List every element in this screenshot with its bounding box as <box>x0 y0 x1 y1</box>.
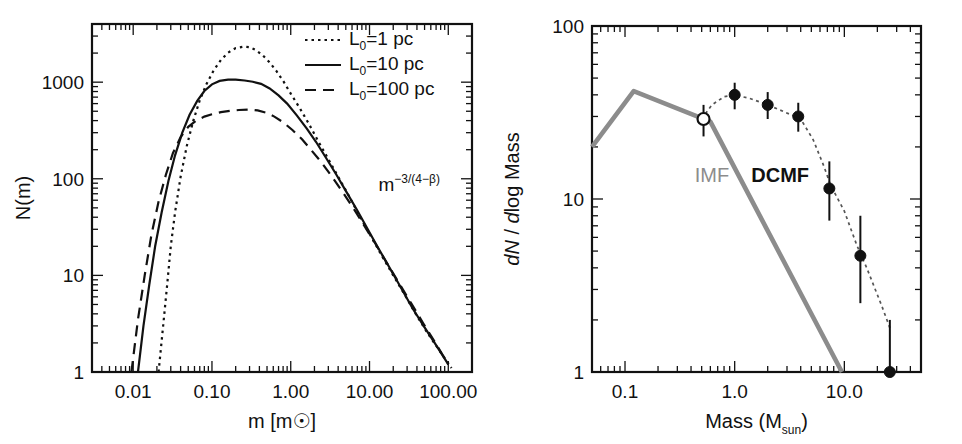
y-tick-label: 10 <box>563 189 584 210</box>
legend-label: L0=100 pc <box>349 78 434 103</box>
figure-container: 0.010.101.0010.00100.001101001000m [m☉]N… <box>0 0 962 444</box>
right-plot-frame <box>592 26 921 372</box>
right-panel-chart: 0.11.010.0110100Mass (Msun)dN / dlog Mas… <box>481 0 962 444</box>
powerlaw-annotation: m−3/(4−β) <box>378 172 439 195</box>
data-point-filled <box>729 89 740 100</box>
imf-annotation: IMF <box>695 164 729 186</box>
x-axis-title: Mass (Msun) <box>705 410 808 437</box>
data-point-filled <box>762 99 773 110</box>
x-tick-label: 1.00 <box>272 381 309 402</box>
legend-label: L0=1 pc <box>349 28 413 53</box>
x-tick-label: 0.1 <box>612 381 638 402</box>
data-point-filled <box>824 183 835 194</box>
series-curve <box>131 110 448 372</box>
data-point-filled <box>855 250 866 261</box>
imf-curve <box>592 91 842 372</box>
x-tick-label: 0.10 <box>193 381 230 402</box>
y-tick-label: 1000 <box>42 72 84 93</box>
dcmf-annotation: DCMF <box>751 164 809 186</box>
y-tick-label: 100 <box>52 169 84 190</box>
legend-label: L0=10 pc <box>349 53 424 78</box>
x-tick-label: 100.00 <box>419 381 477 402</box>
y-tick-label: 1 <box>73 362 84 383</box>
y-tick-label: 10 <box>63 265 84 286</box>
data-point-open <box>698 113 710 125</box>
y-axis-title: dN / dlog Mass <box>501 132 523 265</box>
x-tick-label: 1.0 <box>721 381 747 402</box>
dcmf-fit-curve <box>702 95 890 328</box>
series-curve <box>138 80 448 372</box>
y-axis-title: N(m) <box>12 176 34 220</box>
left-plot-frame <box>92 24 472 372</box>
left-panel-chart: 0.010.101.0010.00100.001101001000m [m☉]N… <box>0 0 481 444</box>
x-tick-label: 10.0 <box>826 381 863 402</box>
data-point-filled <box>793 111 804 122</box>
x-tick-label: 0.01 <box>115 381 152 402</box>
x-tick-label: 10.00 <box>346 381 394 402</box>
y-tick-label: 100 <box>552 16 584 37</box>
x-axis-title: m [m☉] <box>248 410 316 432</box>
y-tick-label: 1 <box>573 362 584 383</box>
data-point-filled <box>884 367 895 378</box>
